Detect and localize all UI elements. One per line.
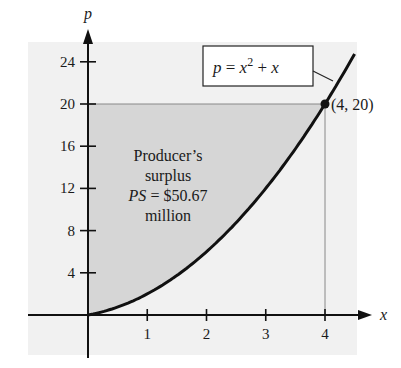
- x-tick-label: 2: [203, 326, 211, 342]
- point-label: (4, 20): [331, 96, 374, 114]
- x-axis-arrow-icon: [358, 310, 372, 320]
- equation-label: p = x2 + x: [212, 55, 279, 77]
- y-tick-label: 24: [60, 54, 76, 70]
- surplus-ps: PS: [128, 187, 147, 204]
- surplus-line-4: million: [145, 207, 191, 224]
- surplus-value: = $50.67: [146, 187, 207, 204]
- x-tick-label: 1: [144, 326, 152, 342]
- x-tick-label: 3: [262, 326, 270, 342]
- x-tick-label: 4: [321, 326, 329, 342]
- equation-var2: x: [270, 58, 279, 77]
- y-tick-label: 16: [60, 138, 76, 154]
- surplus-line-1: Producer’s: [133, 147, 202, 164]
- y-axis-arrow-icon: [83, 29, 93, 44]
- y-tick-label: 4: [68, 265, 76, 281]
- x-axis-label: x: [379, 306, 387, 323]
- y-axis-label: p: [83, 5, 92, 23]
- producer-surplus-chart: 1234 x 4812162024 p (4, 20) p = x2 + x P…: [0, 0, 401, 368]
- y-tick-label: 20: [60, 96, 75, 112]
- surplus-line-2: surplus: [145, 167, 191, 185]
- equation-equals: =: [222, 58, 240, 77]
- equation-lhs: p: [212, 58, 222, 77]
- equilibrium-point: [321, 100, 330, 109]
- y-tick-label: 8: [68, 223, 76, 239]
- equation-plus: +: [253, 58, 271, 77]
- surplus-line-3: PS = $50.67: [128, 187, 208, 204]
- y-tick-label: 12: [60, 180, 75, 196]
